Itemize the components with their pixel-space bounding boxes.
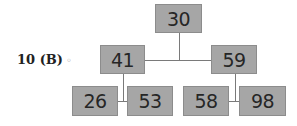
connector-59-vertical bbox=[235, 74, 236, 101]
tree-node-left-left: 26 bbox=[72, 86, 118, 116]
answer-choice: (B) bbox=[40, 52, 63, 67]
tree-node-right-right: 98 bbox=[239, 86, 286, 116]
tree-node-root: 30 bbox=[155, 4, 202, 33]
tree-node-left: 41 bbox=[100, 45, 145, 74]
connector-root-vertical bbox=[179, 33, 180, 60]
connector-level1-horizontal bbox=[145, 60, 211, 61]
tree-node-right-left: 58 bbox=[183, 86, 229, 116]
question-label: 10 (B)◦ bbox=[17, 52, 72, 67]
connector-41-horizontal bbox=[118, 101, 127, 102]
connector-59-horizontal bbox=[229, 101, 239, 102]
circle-mark-icon: ◦ bbox=[66, 55, 72, 66]
question-number: 10 bbox=[17, 52, 35, 67]
connector-41-vertical bbox=[123, 74, 124, 101]
tree-node-right: 59 bbox=[211, 45, 257, 74]
tree-node-left-right: 53 bbox=[127, 86, 173, 116]
